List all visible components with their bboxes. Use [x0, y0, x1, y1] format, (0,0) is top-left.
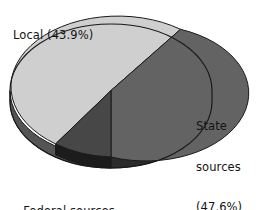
pie-label-state-line3: (47.6%)	[196, 201, 242, 210]
pie-label-local-text: Local (43.9%)	[13, 29, 93, 43]
pie-label-federal: Federal sources (8.5%)	[9, 178, 129, 210]
pie-label-local: Local (43.9%)	[13, 2, 93, 70]
pie-label-state: State sources (47.6%)	[196, 93, 242, 210]
pie-chart: Local (43.9%) State sources (47.6%) Fede…	[0, 0, 264, 210]
pie-label-federal-line1: Federal sources	[9, 205, 129, 210]
pie-label-state-line1: State	[196, 120, 242, 134]
pie-label-state-line2: sources	[196, 161, 242, 175]
